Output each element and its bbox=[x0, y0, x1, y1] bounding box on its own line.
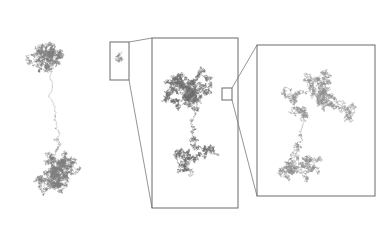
figure-background bbox=[0, 0, 392, 228]
figure-root bbox=[0, 0, 392, 228]
random-walk-magnification-figure bbox=[0, 0, 392, 228]
